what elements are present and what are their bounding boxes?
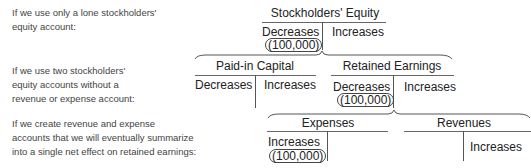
account-title: Paid-in Capital: [195, 59, 315, 73]
debit-side-label: Decreases: [195, 78, 252, 92]
credit-side-label: Increases: [264, 78, 316, 92]
t-account-divider: [322, 22, 323, 50]
account-title: Expenses: [268, 116, 388, 130]
account-title: Retained Earnings: [330, 59, 454, 73]
t-account-top-line: [262, 22, 386, 23]
t-account-divider: [463, 131, 464, 161]
credit-side-label: Increases: [332, 25, 384, 39]
credit-side-label: Increases: [404, 80, 456, 94]
description-line: revenue or expense account:: [12, 92, 252, 106]
description-line: If we create revenue and expense: [12, 117, 252, 131]
description-line: into a single net effect on retained ear…: [12, 145, 252, 159]
t-account-top-line: [404, 131, 531, 132]
debit-side-label: Decreases: [333, 80, 390, 94]
debit-side-label: Decreases: [262, 25, 319, 39]
description-line: equity account:: [12, 20, 252, 34]
t-account-divider: [327, 131, 328, 161]
description-line: If we use only a lone stockholders': [12, 6, 252, 20]
debit-side-label: Increases: [268, 135, 320, 149]
description-lone-account: If we use only a lone stockholders' equi…: [12, 6, 252, 34]
t-account-divider: [255, 75, 256, 108]
description-revenue-expense: If we create revenue and expense account…: [12, 117, 252, 159]
account-title: Stockholders' Equity: [263, 6, 387, 20]
account-title: Revenues: [404, 116, 524, 130]
credit-side-label: Increases: [470, 140, 522, 154]
entry-amount: (100,000): [337, 93, 394, 107]
description-line: accounts that we will eventually summari…: [12, 131, 252, 145]
entry-amount: (100,000): [269, 149, 326, 163]
